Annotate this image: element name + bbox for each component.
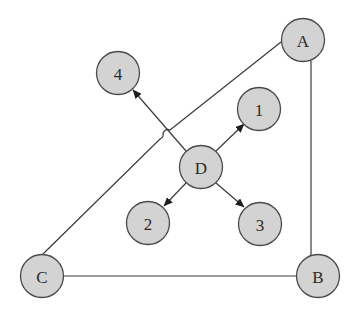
node-c-label: C: [36, 268, 47, 287]
arrow-d-to-4: [133, 90, 186, 151]
node-4-label: 4: [114, 65, 123, 84]
node-2-label: 2: [144, 215, 153, 234]
node-d-label: D: [195, 159, 207, 178]
node-3-label: 3: [256, 216, 265, 235]
node-2: 2: [127, 202, 170, 245]
node-1: 1: [238, 88, 281, 131]
node-d: D: [180, 146, 223, 189]
node-1-label: 1: [255, 101, 264, 120]
arrow-d-to-1: [216, 124, 244, 151]
node-c: C: [21, 255, 64, 298]
arrow-d-to-2: [164, 183, 186, 206]
graph-diagram: A B C D 1 2 3 4: [0, 0, 362, 313]
node-3: 3: [239, 203, 282, 246]
node-a: A: [282, 19, 325, 62]
node-b-label: B: [312, 268, 323, 287]
node-4: 4: [97, 52, 140, 95]
arrow-d-to-3: [216, 183, 244, 207]
node-a-label: A: [297, 32, 310, 51]
node-b: B: [297, 255, 340, 298]
